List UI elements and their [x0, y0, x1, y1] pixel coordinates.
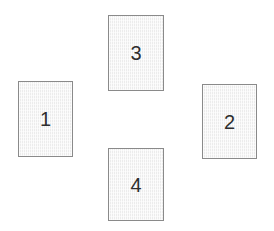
rectangle-card-2[interactable]: 2 — [202, 84, 257, 159]
rectangle-card-1[interactable]: 1 — [18, 81, 73, 157]
rectangle-card-3[interactable]: 3 — [108, 15, 164, 91]
rectangle-card-4[interactable]: 4 — [108, 148, 164, 221]
diagram-canvas: 1 2 3 4 — [0, 0, 274, 231]
rectangle-card-1-label: 1 — [40, 109, 51, 129]
rectangle-card-2-label: 2 — [224, 112, 235, 132]
rectangle-card-3-label: 3 — [130, 43, 141, 63]
rectangle-card-4-label: 4 — [130, 175, 141, 195]
